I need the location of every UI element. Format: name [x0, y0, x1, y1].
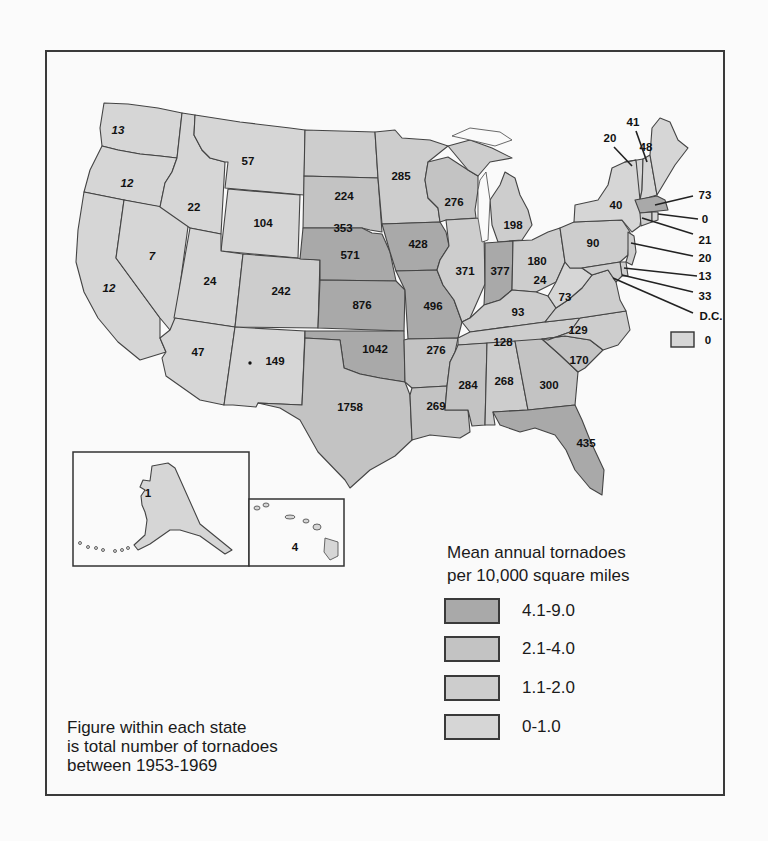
- label-ut: 24: [204, 275, 217, 287]
- label-ky: 93: [512, 306, 525, 318]
- legend-title-line1: Mean annual tornadoes: [447, 541, 629, 564]
- label-ca: 12: [103, 282, 116, 294]
- label-in: 377: [490, 265, 509, 277]
- label-co: 242: [271, 285, 290, 297]
- label-ma: 73: [699, 189, 712, 201]
- label-nh: 41: [627, 116, 640, 128]
- figure-note: Figure within each state is total number…: [67, 718, 278, 775]
- label-pa: 90: [587, 237, 600, 249]
- label-ga: 300: [539, 379, 558, 391]
- label-md: 33: [699, 290, 712, 302]
- dc-swatch: [671, 332, 694, 347]
- label-ak: 1: [145, 487, 152, 499]
- label-sd: 353: [333, 222, 352, 234]
- label-id: 22: [188, 201, 201, 213]
- note-line3: between 1953-1969: [67, 756, 278, 775]
- state-new-mexico: [224, 327, 305, 407]
- label-nc: 129: [568, 324, 587, 336]
- legend-swatch: [444, 598, 500, 624]
- label-ny: 40: [610, 199, 623, 211]
- note-line2: is total number of tornadoes: [67, 737, 278, 756]
- label-mt: 57: [242, 155, 255, 167]
- us-tornado-map: 13 12 12 7 22 57 104 24 242 47 149 224 3…: [0, 0, 768, 841]
- state-florida: [493, 405, 604, 495]
- state-north-dakota: [304, 130, 378, 178]
- state-maine: [650, 118, 688, 195]
- state-rhode-island: [652, 212, 658, 222]
- label-ri: 0: [702, 213, 708, 225]
- legend-title-line2: per 10,000 square miles: [447, 564, 629, 587]
- legend-label: 4.1-9.0: [522, 601, 575, 621]
- legend-title: Mean annual tornadoes per 10,000 square …: [447, 541, 629, 587]
- label-nd: 224: [334, 190, 354, 202]
- label-de: 13: [699, 270, 712, 282]
- label-mn: 285: [391, 170, 411, 182]
- legend-item-1: 4.1-9.0: [444, 597, 575, 625]
- legend-item-2: 2.1-4.0: [444, 635, 575, 663]
- label-fl: 435: [576, 437, 596, 449]
- legend-label: 2.1-4.0: [522, 639, 575, 659]
- label-wa: 13: [112, 124, 125, 136]
- state-new-jersey: [626, 232, 636, 265]
- legend-item-3: 1.1-2.0: [444, 674, 575, 702]
- label-ne: 571: [340, 249, 360, 261]
- legend-label: 0-1.0: [522, 717, 561, 737]
- label-az: 47: [192, 346, 205, 358]
- label-mi: 198: [503, 219, 523, 231]
- label-wy: 104: [253, 217, 273, 229]
- label-wv: 24: [534, 274, 547, 286]
- label-va: 73: [559, 291, 572, 303]
- label-nv: 7: [149, 250, 156, 262]
- legend-item-4: 0-1.0: [444, 713, 561, 741]
- note-line1: Figure within each state: [67, 718, 278, 737]
- label-ms: 284: [458, 379, 478, 391]
- label-vt: 20: [604, 132, 617, 144]
- label-dc: D.C.: [700, 310, 723, 322]
- label-wi: 276: [444, 196, 463, 208]
- label-dc-value: 0: [705, 334, 711, 346]
- state-michigan: [490, 172, 532, 242]
- nm-dot: [248, 361, 251, 364]
- label-ar: 276: [426, 344, 445, 356]
- label-ok: 1042: [362, 343, 388, 355]
- legend-label: 1.1-2.0: [522, 678, 575, 698]
- label-ia: 428: [408, 238, 428, 250]
- label-tn: 128: [493, 336, 513, 348]
- label-ct: 21: [699, 234, 712, 246]
- state-massachusetts: [635, 196, 668, 213]
- legend-swatch: [444, 675, 500, 701]
- label-la: 269: [426, 400, 445, 412]
- label-il: 371: [455, 265, 475, 277]
- label-mo: 496: [423, 300, 442, 312]
- label-nm: 149: [265, 355, 284, 367]
- label-al: 268: [494, 375, 514, 387]
- label-nj: 20: [699, 252, 712, 264]
- label-ks: 876: [352, 299, 371, 311]
- label-sc: 170: [569, 354, 588, 366]
- label-or: 12: [121, 177, 134, 189]
- state-arizona: [160, 318, 235, 405]
- label-tx: 1758: [337, 401, 363, 413]
- legend-swatch: [444, 636, 500, 662]
- legend-swatch: [444, 714, 500, 740]
- label-hi: 4: [292, 541, 299, 553]
- label-oh: 180: [527, 255, 546, 267]
